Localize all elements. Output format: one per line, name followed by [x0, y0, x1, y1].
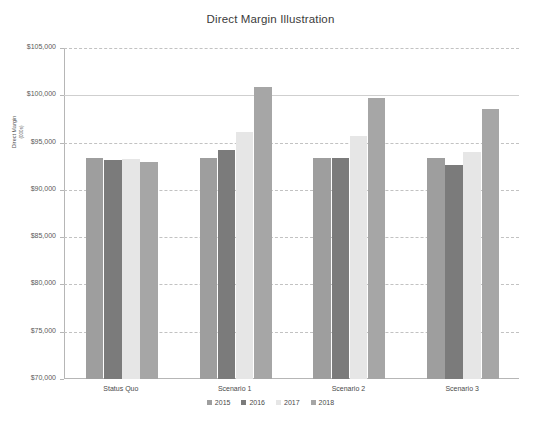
y-tick-mark	[60, 284, 64, 285]
y-tick-mark	[60, 48, 64, 49]
bar-group	[313, 48, 385, 379]
bar-2016-scenario-2[interactable]	[332, 158, 350, 379]
y-tick-mark	[60, 143, 64, 144]
x-tick-label-status-quo: Status Quo	[64, 385, 178, 392]
bar-group	[200, 48, 272, 379]
y-tick-label: $105,000	[0, 43, 56, 50]
x-tick-label-scenario-1: Scenario 1	[178, 385, 292, 392]
legend-entry-2016[interactable]: 2016	[241, 399, 265, 406]
bar-2016-scenario-3[interactable]	[445, 165, 463, 379]
bar-2015-scenario-2[interactable]	[313, 158, 331, 379]
chart-container: Direct Margin Illustration Direct Margin…	[0, 0, 541, 429]
legend-label: 2017	[284, 399, 300, 406]
y-tick-mark	[60, 95, 64, 96]
y-tick-mark	[60, 332, 64, 333]
bar-2018-scenario-2[interactable]	[368, 98, 386, 379]
legend-swatch-icon	[311, 400, 316, 405]
bar-group	[86, 48, 158, 379]
bar-2018-scenario-1[interactable]	[254, 87, 272, 379]
bar-2015-status-quo[interactable]	[86, 158, 104, 379]
y-tick-mark	[60, 190, 64, 191]
y-tick-label: $80,000	[0, 279, 56, 286]
legend-entry-2015[interactable]: 2015	[207, 399, 231, 406]
legend-entry-2018[interactable]: 2018	[311, 399, 335, 406]
bar-2017-scenario-1[interactable]	[236, 132, 254, 379]
x-tick-label-scenario-3: Scenario 3	[405, 385, 519, 392]
bar-2015-scenario-1[interactable]	[200, 158, 218, 379]
bars-layer	[65, 48, 519, 379]
legend-swatch-icon	[241, 400, 246, 405]
y-tick-label: $95,000	[0, 138, 56, 145]
y-tick-label: $70,000	[0, 374, 56, 381]
y-axis-title-units: (000s)	[18, 92, 25, 172]
y-tick-label: $100,000	[0, 90, 56, 97]
bar-2017-scenario-2[interactable]	[350, 136, 368, 379]
y-tick-label: $75,000	[0, 327, 56, 334]
bar-2016-scenario-1[interactable]	[218, 150, 236, 379]
y-tick-label: $85,000	[0, 232, 56, 239]
legend-swatch-icon	[276, 400, 281, 405]
y-tick-mark	[60, 237, 64, 238]
x-tick-label-scenario-2: Scenario 2	[292, 385, 406, 392]
legend-label: 2015	[215, 399, 231, 406]
bar-2018-status-quo[interactable]	[140, 162, 158, 379]
y-tick-mark	[60, 379, 64, 380]
chart-title: Direct Margin Illustration	[0, 13, 541, 25]
legend-swatch-icon	[207, 400, 212, 405]
plot-area: $105,000$100,000$95,000$90,000$85,000$80…	[64, 48, 519, 379]
bar-group	[427, 48, 499, 379]
legend-label: 2016	[249, 399, 265, 406]
bar-2015-scenario-3[interactable]	[427, 158, 445, 379]
legend-entry-2017[interactable]: 2017	[276, 399, 300, 406]
y-axis-title: Direct Margin (000s)	[11, 92, 25, 172]
y-tick-label: $90,000	[0, 185, 56, 192]
bar-2017-scenario-3[interactable]	[463, 152, 481, 379]
bar-2016-status-quo[interactable]	[104, 160, 122, 379]
bar-2018-scenario-3[interactable]	[482, 109, 500, 379]
bar-2017-status-quo[interactable]	[122, 159, 140, 379]
legend-label: 2018	[319, 399, 335, 406]
chart-legend: 2015201620172018	[0, 399, 541, 406]
